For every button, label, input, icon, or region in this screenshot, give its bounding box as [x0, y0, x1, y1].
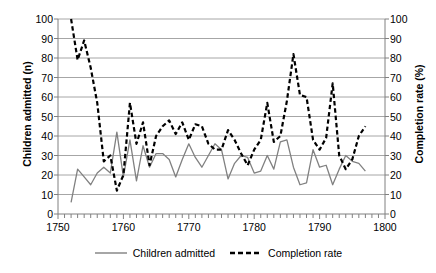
legend-swatch-dashed-line-icon — [229, 248, 263, 258]
legend-entry: Children admitted — [94, 247, 215, 259]
axis-ticks — [54, 19, 389, 219]
legend-swatch-solid-line-icon — [94, 248, 128, 258]
gridlines — [58, 19, 385, 195]
legend-label: Children admitted — [133, 247, 215, 259]
chart-legend: Children admittedCompletion rate — [0, 247, 436, 259]
plot-area — [0, 0, 436, 273]
series-line-children-admitted — [71, 132, 365, 202]
legend-label: Completion rate — [268, 247, 342, 259]
series-line-completion-rate — [71, 19, 365, 191]
legend-entry: Completion rate — [229, 247, 342, 259]
chart-figure: Children admitted (n) Completion rate (%… — [0, 0, 436, 273]
